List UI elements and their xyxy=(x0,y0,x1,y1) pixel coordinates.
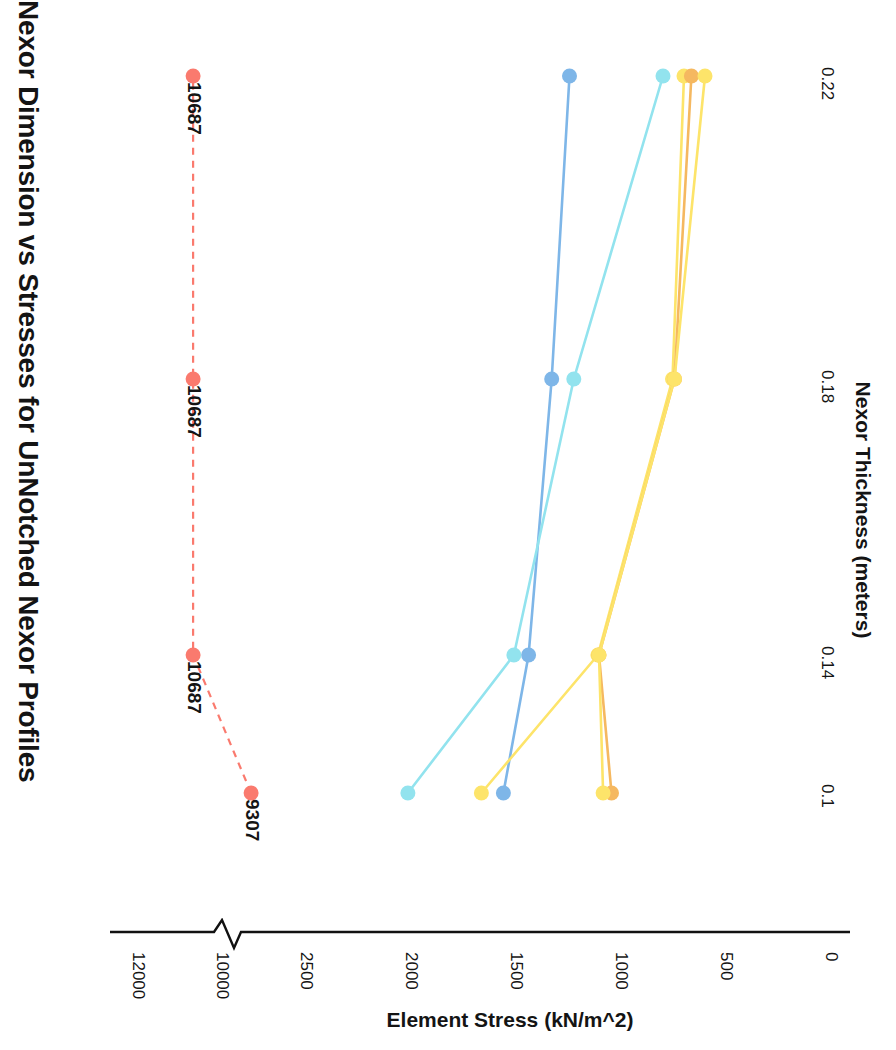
data-point-marker[interactable] xyxy=(400,786,415,801)
series-line xyxy=(408,76,663,793)
data-point-marker[interactable] xyxy=(684,69,699,84)
data-point-value-label: 9307 xyxy=(241,799,263,889)
data-point-marker[interactable] xyxy=(521,648,536,663)
series-line xyxy=(503,76,569,793)
data-point-value-label: 10687 xyxy=(183,82,205,172)
data-point-marker[interactable] xyxy=(544,372,559,387)
category-axis-tick-label: 0.22 xyxy=(818,67,836,147)
value-axis-tick-label: 10000 xyxy=(213,952,231,1050)
category-axis-tick-label: 0.1 xyxy=(818,784,836,864)
series-line xyxy=(481,76,684,793)
data-point-marker[interactable] xyxy=(506,648,521,663)
series-line xyxy=(599,76,691,793)
value-axis-tick-label: 1000 xyxy=(612,952,630,1050)
data-point-marker[interactable] xyxy=(566,372,581,387)
value-axis-tick-label: 1500 xyxy=(507,952,525,1050)
series-line xyxy=(599,76,705,793)
data-point-value-label: 10687 xyxy=(183,661,205,751)
value-axis-tick-label: 500 xyxy=(717,952,735,1050)
category-axis-label: Nexor Thickness (meters) xyxy=(850,250,876,770)
data-point-marker[interactable] xyxy=(698,69,713,84)
data-point-marker[interactable] xyxy=(496,786,511,801)
value-axis-label: Element Stress (kN/m^2) xyxy=(180,1008,840,1032)
data-point-marker[interactable] xyxy=(562,69,577,84)
data-point-value-label: 10687 xyxy=(183,385,205,475)
series-layer xyxy=(120,20,826,930)
category-axis-tick-label: 0.18 xyxy=(818,370,836,450)
value-axis-tick-label: 2500 xyxy=(297,952,315,1050)
value-axis-tick-label: 2000 xyxy=(402,952,420,1050)
chart-page: Nexor Dimension vs Stresses for UnNotche… xyxy=(0,0,896,1050)
value-axis-tick-label: 12000 xyxy=(129,952,147,1050)
category-axis-tick-label: 0.14 xyxy=(818,646,836,726)
value-axis-tick-label: 0 xyxy=(822,952,840,1050)
data-point-marker[interactable] xyxy=(656,69,671,84)
data-point-marker[interactable] xyxy=(474,786,489,801)
data-point-marker[interactable] xyxy=(596,786,611,801)
data-point-marker[interactable] xyxy=(667,372,682,387)
data-point-marker[interactable] xyxy=(592,648,607,663)
plot-area xyxy=(120,20,826,930)
page-title: Nexor Dimension vs Stresses for UnNotche… xyxy=(0,0,56,1000)
